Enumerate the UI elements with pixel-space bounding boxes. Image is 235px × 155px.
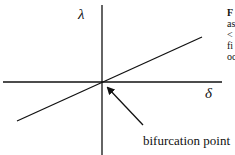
- bifurcation-diagram: [0, 0, 235, 155]
- x-axis-label: δ: [205, 85, 212, 102]
- caption-line: F: [227, 7, 235, 18]
- caption-fragment: F as < fi oc: [227, 7, 235, 62]
- bifurcation-point-label: bifurcation point: [143, 133, 230, 149]
- annotation-arrow: [108, 88, 143, 125]
- solution-line: [17, 37, 202, 121]
- caption-line: oc: [227, 51, 235, 62]
- caption-line: fi: [227, 40, 235, 51]
- y-axis-label: λ: [78, 6, 85, 23]
- caption-line: <: [227, 29, 235, 40]
- caption-line: as: [227, 18, 235, 29]
